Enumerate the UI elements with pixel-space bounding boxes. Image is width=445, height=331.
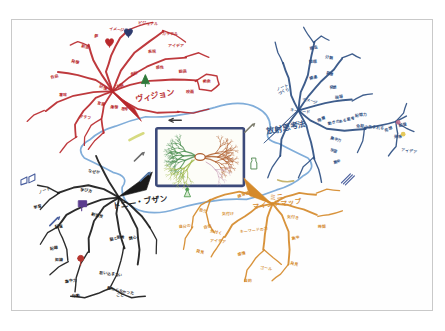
radiant-twig — [304, 27, 314, 42]
buzan-sub-label-line: ノート — [38, 186, 51, 194]
radiant-twig — [342, 54, 360, 58]
vision-sub-label-line: 自由 — [50, 72, 59, 79]
mini-sub-label-line: 感情 — [237, 250, 246, 257]
vision-sub-label: 創造 — [80, 43, 90, 50]
vision-sub-label-line: 思考 — [120, 106, 129, 112]
radiant-sub-label: ノートづくり — [276, 83, 291, 96]
vision-sub-label-line: 表現 — [147, 49, 156, 55]
radiant-sub-label-line: 発想 — [393, 134, 402, 139]
mini-sub-label: 自分 — [199, 207, 208, 213]
vision-sub-label-line: 記憶 — [98, 83, 107, 90]
radiant-sub-label-line: 階層 — [316, 115, 325, 122]
radiant-sub-label-line: 整理 — [307, 58, 316, 64]
purple-box-icon — [79, 201, 87, 211]
radiant-sub-label: 分類 — [325, 54, 333, 60]
page-root: ヴィジョン自由発想創造夢イメージビジュアルカラフルアイデア表現感性絵画美術色彩右… — [0, 0, 445, 331]
mini-sub-label-line: 集中 — [290, 235, 300, 242]
buzan-sub-label: 記録 — [50, 245, 58, 250]
buzan-sub-label-line: 学び方 — [80, 187, 93, 194]
buzan-sub-label-line: なぜか — [88, 168, 101, 174]
buzan-sub-label: ノート — [38, 186, 51, 194]
radiant-sub-label: 構造 — [309, 44, 318, 51]
buzan-sub-label: 行動 — [71, 293, 80, 298]
vision-sub-label: イメージ — [108, 26, 125, 33]
buzan-sub-label: 集中力 — [63, 278, 76, 284]
vision-sub-label-line: 創造 — [80, 43, 90, 50]
buzan-sub-label-line: 集中力 — [63, 278, 76, 284]
radiant-sub-label-line: 構造 — [309, 44, 318, 51]
mini-sub-label-line: 自分の — [179, 223, 192, 230]
vision-sub-label-line: 意味 — [59, 92, 68, 97]
book-icon-stroke — [29, 174, 35, 183]
radiant-sub-label: イメージ — [302, 97, 319, 106]
branch-label-vision: ヴィジョン — [134, 87, 175, 104]
vision-sub-label: 思考 — [120, 106, 129, 112]
radiant-twig — [313, 36, 329, 42]
radiant-sub-label-line: キーワード — [290, 107, 310, 114]
small-heart-icon-stroke — [106, 39, 114, 47]
book-icon — [21, 174, 35, 185]
book-icon-stroke — [21, 177, 27, 185]
vision-sub-label: カラフル — [162, 31, 178, 37]
mini-sub-label-line: 発見 — [289, 260, 299, 267]
mini-twig — [264, 250, 281, 264]
buzan-sub-label-line: 関心 — [129, 235, 138, 241]
vision-sub-label: 映画 — [186, 89, 194, 94]
vision-sub-label-line: 映画 — [186, 89, 194, 94]
green-tree-icon — [141, 75, 149, 87]
vision-sub-label: ビジュアル — [138, 20, 158, 27]
vision-sub-label-line: 感性 — [156, 64, 165, 70]
vision-sub-label: 絵画 — [179, 68, 188, 74]
mini-sub-label: 発見 — [289, 260, 299, 267]
mini-twig — [272, 265, 288, 281]
radiant-twig — [313, 157, 321, 182]
mini-sub-label: アイデア — [210, 238, 226, 244]
vision-sub-label-line: アイデア — [168, 43, 184, 48]
buzan-twig — [58, 227, 68, 261]
buzan-sub-label: なぜか — [88, 168, 101, 174]
vision-sub-label: 記憶 — [98, 83, 107, 90]
buzan-sub-label-line: こと — [116, 292, 125, 298]
mini-sub-label: 時間 — [317, 223, 325, 229]
mini-sub-label-line: キーワードの力 — [239, 226, 267, 234]
radiant-sub-label-line: 発想 — [324, 70, 334, 77]
radiant-sub-label: 整理 — [307, 58, 316, 64]
buzan-sub-label-line: 知識 — [54, 257, 63, 262]
vision-sub-label: アイデア — [168, 43, 184, 48]
mini-sub-label: 自分の — [179, 223, 192, 230]
vision-twig — [27, 110, 44, 121]
vision-sub-label-line: 色彩 — [129, 70, 138, 77]
radiant-sub-label: 集中 — [331, 158, 341, 166]
mini-sub-label: ゴール — [260, 265, 273, 271]
heart-icon — [124, 29, 132, 37]
neuron-soma — [195, 154, 205, 161]
vision-sub-label-line: カラフル — [162, 31, 178, 37]
buzan-sub-label-line: 記憶 — [54, 223, 63, 229]
radiant-sub-label-line: 発想 — [328, 84, 338, 91]
buzan-twig — [50, 262, 68, 275]
buzan-twig — [149, 227, 156, 254]
mini-sub-label: 発見 — [195, 248, 205, 255]
radiant-sub-label-line: 発想 — [383, 125, 393, 133]
yellow-dot-icon — [401, 132, 406, 137]
vision-sub-label: 意味 — [59, 92, 68, 97]
vision-sub-label-line: 言語 — [96, 101, 105, 108]
bottle-icon — [251, 158, 257, 169]
vision-sub-label-line: ビジュアル — [138, 20, 158, 27]
green-tree-icon-stroke — [141, 75, 149, 84]
photo-frame: ヴィジョン自由発想創造夢イメージビジュアルカラフルアイデア表現感性絵画美術色彩右… — [11, 19, 433, 311]
mini-sub-label-line: 発見 — [195, 248, 205, 255]
buzan-sub-label: 記憶 — [54, 223, 63, 229]
mini-sub-label: 気付く — [210, 228, 223, 235]
purple-box-icon-stroke — [79, 201, 87, 207]
vision-sub-label-line: 美術 — [202, 78, 211, 85]
radiant-sub-label: 発想 — [383, 125, 393, 133]
radiant-sub-label: 発想 — [328, 84, 338, 91]
branch-label-radiant: 放射思考法 — [264, 118, 306, 136]
radiant-twig — [357, 128, 364, 152]
radiant-twig — [352, 94, 372, 101]
pencil-icon-stroke — [58, 217, 60, 220]
vision-sub-label: 連想 — [109, 104, 118, 111]
radiant-sub-label: 現場 — [334, 94, 343, 99]
buzan-sub-label: 関心 — [129, 235, 138, 241]
